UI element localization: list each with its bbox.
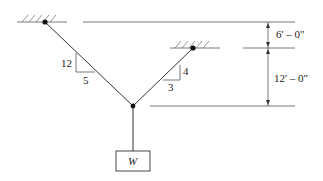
arrow-up-icon: [266, 49, 270, 54]
load-label: W: [128, 155, 138, 167]
left-hatching: [22, 15, 56, 22]
left-cable: [45, 22, 133, 106]
right-slope-vertical-label: 4: [183, 65, 189, 77]
load-box: W: [116, 151, 150, 171]
dimension-line: 6' – 0" 12' – 0": [266, 22, 308, 106]
cable-diagram: 12 5 4 3 6' – 0" 12' – 0" W: [0, 0, 323, 181]
arrow-down-icon: [266, 100, 270, 105]
left-slope-vertical-label: 12: [61, 57, 72, 69]
arrow-down-icon: [266, 42, 270, 47]
right-slope-horizontal-label: 3: [168, 81, 174, 93]
left-slope-horizontal-label: 5: [83, 74, 89, 86]
left-anchor-node: [42, 19, 47, 24]
junction-node: [131, 104, 136, 109]
arrow-up-icon: [266, 23, 270, 28]
right-cable: [133, 48, 193, 106]
right-anchor-node: [190, 45, 195, 50]
left-support: [17, 15, 67, 22]
left-slope-triangle: 12 5: [61, 53, 95, 86]
dimension-upper-label: 6' – 0": [276, 28, 304, 40]
right-slope-triangle: 4 3: [163, 65, 189, 93]
dimension-lower-label: 12' – 0": [274, 72, 308, 84]
